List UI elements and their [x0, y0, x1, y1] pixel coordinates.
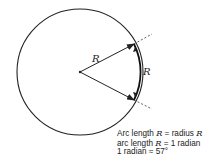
dashed-extension-lower [134, 100, 152, 109]
dashed-extension-upper [134, 34, 152, 44]
radius-arrow-lower [80, 72, 134, 100]
arc-label: R [142, 66, 151, 77]
caption: Arc length R = radius R arc length R = 1… [117, 129, 202, 157]
radius-arrow-upper [80, 44, 134, 72]
caption-line-3: 1 radian ≈ 57° [117, 148, 202, 157]
radius-label: R [91, 53, 100, 64]
